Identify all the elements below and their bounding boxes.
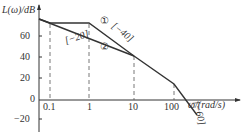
slope-label-minus40: [−40] — [110, 20, 136, 44]
y-tick-60: 60 — [20, 30, 30, 41]
y-tick-40: 40 — [20, 51, 30, 62]
y-tick-0: 0 — [30, 93, 35, 104]
curve-2-label: ② — [100, 41, 109, 52]
y-tick-neg20: −20 — [14, 113, 30, 124]
x-tick-100: 100 — [164, 101, 179, 112]
x-tick-0.1: 0.1 — [43, 101, 56, 112]
x-tick-1: 1 — [87, 101, 92, 112]
curve-1-label: ① — [100, 15, 109, 26]
y-axis-label: L(ω)/dB — [1, 4, 35, 16]
y-tick-20: 20 — [20, 72, 30, 83]
bode-diagram: L(ω)/dB ω/(rad/s) 60 40 20 0 −20 0.1 1 1… — [0, 0, 242, 134]
x-tick-10: 10 — [128, 101, 138, 112]
